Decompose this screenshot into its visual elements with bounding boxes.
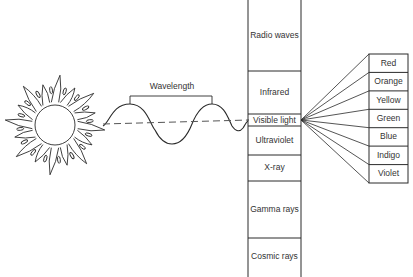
wave-axis-dashed-line: [103, 120, 249, 124]
band-gamma-rays: Gamma rays: [248, 205, 301, 214]
electromagnetic-spectrum-diagram: [0, 0, 413, 277]
band-visible-light: Visible light: [248, 116, 301, 125]
band-radio-waves: Radio waves: [248, 31, 301, 40]
band-cosmic-rays: Cosmic rays: [248, 252, 301, 261]
color-orange: Orange: [369, 77, 408, 86]
color-violet: Violet: [369, 169, 408, 178]
color-red: Red: [369, 59, 408, 68]
band-infrared: Infrared: [248, 88, 301, 97]
sun-icon: [5, 75, 105, 175]
color-green: Green: [369, 114, 408, 123]
band-ultraviolet: Ultraviolet: [248, 136, 301, 145]
wavelength-bracket: [130, 96, 212, 104]
wave-icon: [103, 104, 248, 144]
wavelength-label: Wavelength: [140, 82, 204, 91]
color-indigo: Indigo: [369, 151, 408, 160]
band-x-ray: X-ray: [248, 163, 301, 172]
color-blue: Blue: [369, 132, 408, 141]
dispersion-fan-lines: [301, 54, 369, 183]
color-yellow: Yellow: [369, 96, 408, 105]
